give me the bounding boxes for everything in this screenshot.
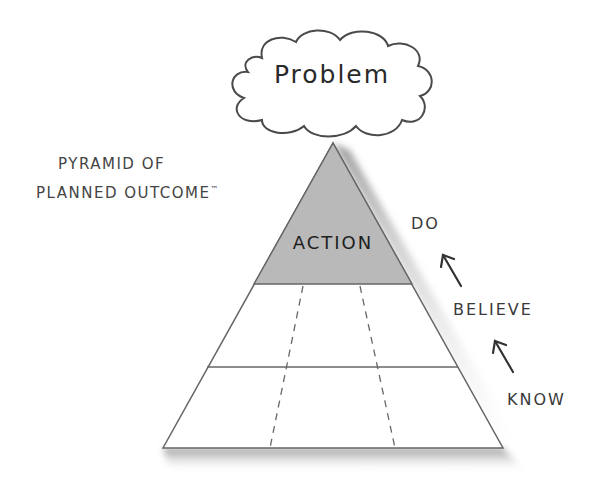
step-label-do: DO <box>411 214 440 233</box>
arrow-up-left-icon <box>493 341 513 372</box>
title-text: PLANNED OUTCOME <box>36 184 211 202</box>
step-label-know: KNOW <box>507 390 566 409</box>
tier-label-action: ACTION <box>268 232 398 253</box>
step-label-believe: BELIEVE <box>453 300 533 319</box>
title-line-1: PYRAMID OF <box>58 155 165 173</box>
arrow-up-left-icon <box>441 255 461 286</box>
trademark-symbol: ™ <box>211 185 219 194</box>
cloud-label: Problem <box>228 60 436 89</box>
title-line-2: PLANNED OUTCOME™ <box>36 184 219 202</box>
pyramid-tier-action <box>254 143 412 284</box>
